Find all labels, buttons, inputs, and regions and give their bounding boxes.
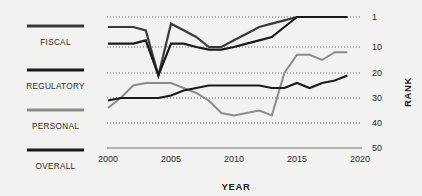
x-tick-label-2010: 2010 <box>224 154 244 164</box>
legend-label-overall: OVERALL <box>36 162 76 171</box>
y-axis-title: RANK <box>402 77 413 107</box>
rank-line-chart: FISCALREGULATORYPERSONALOVERALL 11020304… <box>0 0 422 196</box>
legend-label-fiscal: FISCAL <box>40 38 71 47</box>
y-tick-label-20: 20 <box>372 68 382 78</box>
y-tick-label-30: 30 <box>372 93 382 103</box>
chart-legend: FISCALREGULATORYPERSONALOVERALL <box>26 26 85 171</box>
y-tick-label-10: 10 <box>372 42 382 52</box>
y-tick-label-1: 1 <box>372 12 377 22</box>
series-line-personal <box>108 52 347 115</box>
x-tick-label-2015: 2015 <box>287 154 307 164</box>
x-tick-label-2020: 2020 <box>350 154 370 164</box>
y-tick-label-50: 50 <box>372 143 382 153</box>
x-tick-label-2000: 2000 <box>98 154 118 164</box>
y-axis-ticks: 11020304050 <box>372 12 382 153</box>
x-tick-label-2005: 2005 <box>161 154 181 164</box>
y-tick-label-40: 40 <box>372 118 382 128</box>
x-axis-ticks: 20002005201020152020 <box>98 154 370 164</box>
series-line-regulatory <box>108 76 347 101</box>
chart-container: FISCALREGULATORYPERSONALOVERALL 11020304… <box>0 0 422 196</box>
legend-label-personal: PERSONAL <box>32 122 79 131</box>
legend-label-regulatory: REGULATORY <box>26 82 85 91</box>
data-series <box>108 17 347 116</box>
series-line-overall <box>108 17 347 76</box>
x-axis-title: YEAR <box>222 181 251 192</box>
series-line-fiscal <box>108 17 347 76</box>
